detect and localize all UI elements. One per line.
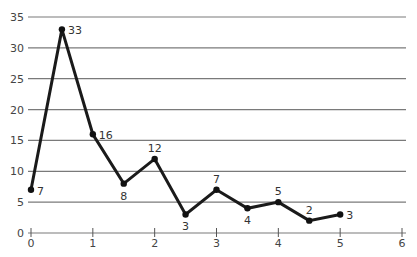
data-point — [121, 180, 127, 186]
data-label: 7 — [213, 173, 220, 186]
series-line — [31, 29, 340, 220]
x-tick-label: 0 — [28, 237, 35, 250]
data-point — [213, 187, 219, 193]
y-axis-tick-labels: 05101520253035 — [10, 11, 24, 240]
x-tick-label: 4 — [275, 237, 282, 250]
x-tick-label: 1 — [89, 237, 96, 250]
x-tick-label: 3 — [213, 237, 220, 250]
gridlines — [28, 17, 406, 233]
data-point — [151, 156, 157, 162]
data-label: 7 — [37, 185, 44, 198]
data-point — [182, 211, 188, 217]
y-tick-label: 35 — [10, 11, 24, 24]
y-tick-label: 15 — [10, 134, 24, 147]
line-chart: 05101520253035 0123456 73316812374523 — [0, 0, 417, 257]
data-label: 33 — [68, 24, 82, 37]
data-label: 12 — [148, 142, 162, 155]
y-tick-label: 5 — [17, 196, 24, 209]
x-tick-label: 2 — [151, 237, 158, 250]
data-label: 3 — [346, 209, 353, 222]
data-label: 16 — [99, 129, 113, 142]
y-tick-label: 0 — [17, 227, 24, 240]
y-tick-label: 30 — [10, 42, 24, 55]
data-point — [244, 205, 250, 211]
data-point — [337, 211, 343, 217]
y-tick-label: 25 — [10, 73, 24, 86]
y-tick-label: 10 — [10, 165, 24, 178]
x-axis: 0123456 — [28, 228, 406, 250]
data-point — [28, 187, 34, 193]
data-label: 8 — [120, 190, 127, 203]
data-label: 3 — [182, 220, 189, 233]
data-label: 2 — [306, 204, 313, 217]
x-tick-label: 5 — [337, 237, 344, 250]
data-point — [59, 26, 65, 32]
data-point — [275, 199, 281, 205]
data-label: 5 — [275, 185, 282, 198]
data-point — [306, 217, 312, 223]
data-label: 4 — [244, 214, 251, 227]
data-point — [90, 131, 96, 137]
y-tick-label: 20 — [10, 104, 24, 117]
x-tick-label: 6 — [399, 237, 406, 250]
